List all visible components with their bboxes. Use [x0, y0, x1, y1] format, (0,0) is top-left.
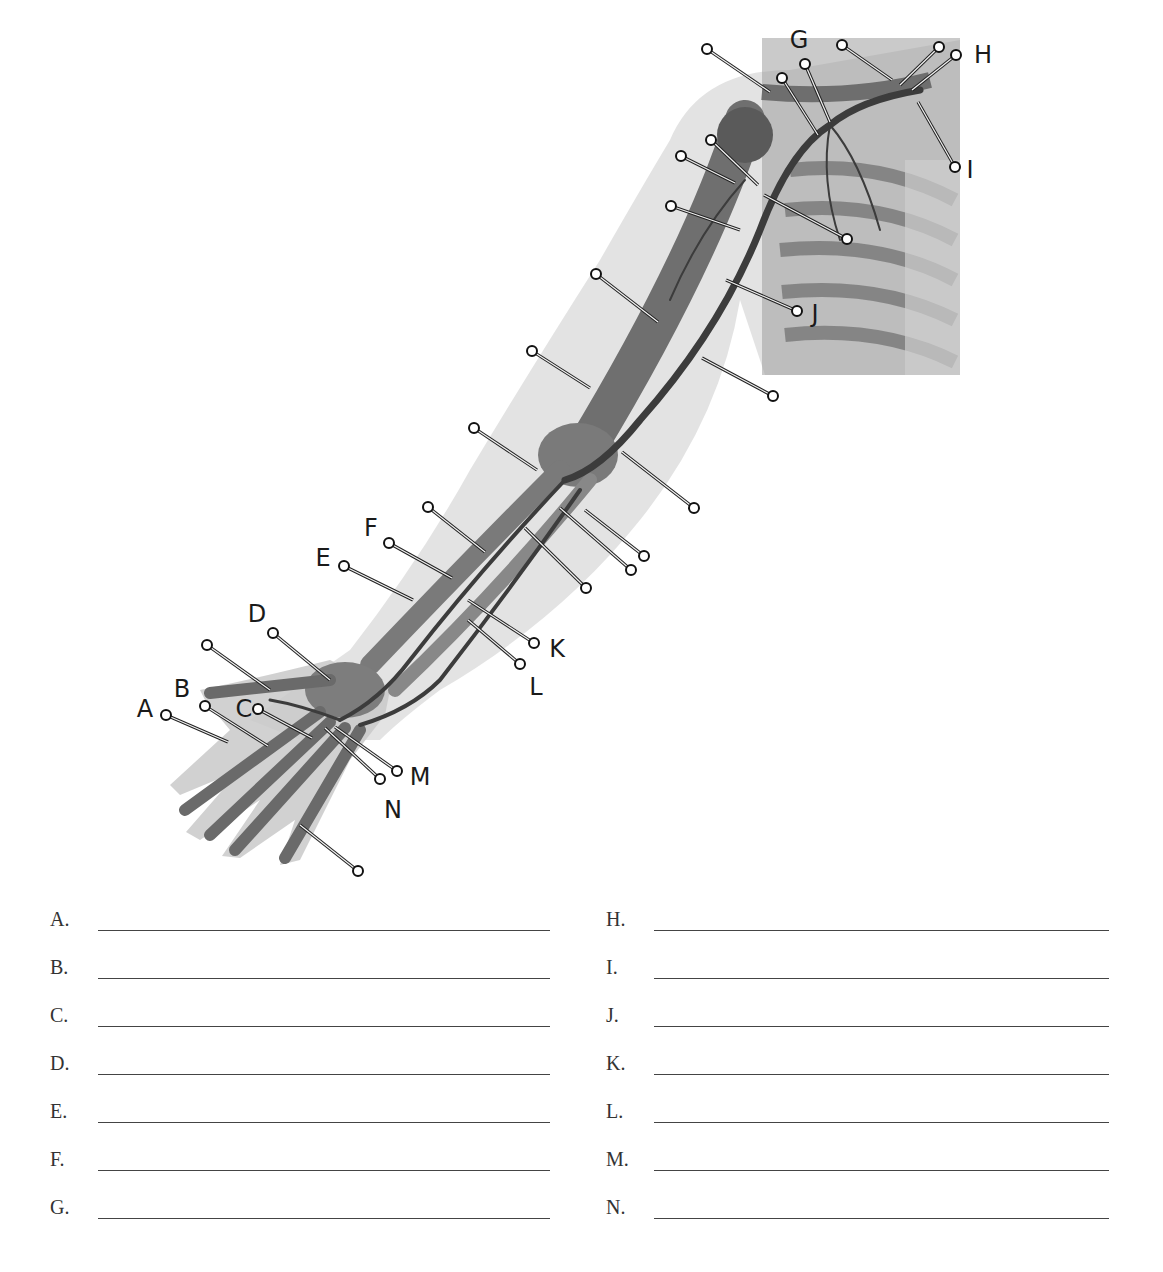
answer-letter: A.	[50, 908, 69, 931]
callout-label-n: N	[384, 796, 402, 824]
answer-letter: J.	[606, 1004, 619, 1027]
answer-letter: L.	[606, 1100, 623, 1123]
answer-blank-line[interactable]	[654, 1074, 1109, 1075]
answer-blank-line[interactable]	[98, 1026, 550, 1027]
answer-letter: I.	[606, 956, 618, 979]
callout-m-pin-circle-icon	[392, 766, 402, 776]
unlabeled-1-pin-circle-icon	[777, 73, 787, 83]
answer-blank-line[interactable]	[654, 930, 1109, 931]
unlabeled-4-pin-circle-icon	[706, 135, 716, 145]
callout-d-pin-circle-icon	[268, 628, 278, 638]
callout-label-l: L	[529, 673, 543, 701]
callout-f-pin-circle-icon	[384, 538, 394, 548]
answer-blank-line[interactable]	[654, 1170, 1109, 1171]
callout-g-pin-circle-icon	[800, 59, 810, 69]
callout-label-i: I	[966, 156, 973, 184]
answer-letter: C.	[50, 1004, 68, 1027]
callout-label-h: H	[974, 41, 992, 69]
callout-label-c: C	[236, 695, 253, 723]
callout-label-j: J	[809, 300, 818, 328]
arm-arteries-illustration: ABCDEFGHIJKLMN	[0, 0, 1163, 890]
answer-row-h: H.	[606, 900, 1109, 940]
callout-label-m: M	[410, 763, 431, 791]
answer-letter: F.	[50, 1148, 65, 1171]
unlabeled-8-pin-circle-icon	[591, 269, 601, 279]
callout-c-pin-circle-icon	[253, 704, 263, 714]
answer-row-e: E.	[50, 1092, 550, 1132]
callout-label-a: A	[137, 695, 154, 723]
answer-blank-line[interactable]	[654, 978, 1109, 979]
answer-letter: M.	[606, 1148, 629, 1171]
answer-blank-line[interactable]	[654, 1218, 1109, 1219]
answer-letter: N.	[606, 1196, 625, 1219]
unlabeled-13-pin-circle-icon	[423, 502, 433, 512]
thorax-ribcage	[762, 38, 960, 375]
unlabeled-5-pin-circle-icon	[676, 151, 686, 161]
callout-label-b: B	[174, 675, 190, 703]
answer-blank-line[interactable]	[654, 1122, 1109, 1123]
unlabeled-14-pin-circle-icon	[639, 551, 649, 561]
unlabeled-18-pin-circle-icon	[353, 866, 363, 876]
answer-blank-line[interactable]	[654, 1026, 1109, 1027]
answer-row-g: G.	[50, 1188, 550, 1228]
callout-h-pin-circle-icon	[951, 50, 961, 60]
answer-row-a: A.	[50, 900, 550, 940]
answer-letter: H.	[606, 908, 625, 931]
unlabeled-17-pin-circle-icon	[202, 640, 212, 650]
callout-b-pin-circle-icon	[200, 701, 210, 711]
answer-row-i: I.	[606, 948, 1109, 988]
answer-row-f: F.	[50, 1140, 550, 1180]
unlabeled-7-pin-circle-icon	[666, 201, 676, 211]
answer-row-j: J.	[606, 996, 1109, 1036]
answer-blank-line[interactable]	[98, 1122, 550, 1123]
answer-row-c: C.	[50, 996, 550, 1036]
callout-a-pin-circle-icon	[161, 710, 171, 720]
callout-label-f: F	[364, 514, 378, 542]
answer-letter: B.	[50, 956, 68, 979]
callout-l-pin-circle-icon	[515, 659, 525, 669]
answer-blank-line[interactable]	[98, 1170, 550, 1171]
unlabeled-16-pin-circle-icon	[581, 583, 591, 593]
answer-letter: D.	[50, 1052, 69, 1075]
unlabeled-6-pin-circle-icon	[842, 234, 852, 244]
answer-blank-line[interactable]	[98, 1218, 550, 1219]
callout-label-d: D	[248, 600, 266, 628]
unlabeled-15-pin-circle-icon	[626, 565, 636, 575]
callout-k-pin-circle-icon	[529, 638, 539, 648]
unlabeled-10-pin-circle-icon	[527, 346, 537, 356]
answer-letter: E.	[50, 1100, 67, 1123]
unlabeled-9-pin-circle-icon	[768, 391, 778, 401]
callout-e-pin-circle-icon	[339, 561, 349, 571]
answer-letter: G.	[50, 1196, 69, 1219]
answer-blank-line[interactable]	[98, 930, 550, 931]
answer-letter: K.	[606, 1052, 625, 1075]
answer-row-b: B.	[50, 948, 550, 988]
answer-row-m: M.	[606, 1140, 1109, 1180]
answer-row-d: D.	[50, 1044, 550, 1084]
answer-blank-line[interactable]	[98, 978, 550, 979]
callout-label-k: K	[549, 635, 566, 663]
callout-i-pin-circle-icon	[950, 162, 960, 172]
unlabeled-11-pin-circle-icon	[469, 423, 479, 433]
unlabeled-3-pin-circle-icon	[934, 42, 944, 52]
answer-row-k: K.	[606, 1044, 1109, 1084]
unlabeled-2-pin-circle-icon	[837, 40, 847, 50]
answer-blank-line[interactable]	[98, 1074, 550, 1075]
answer-row-l: L.	[606, 1092, 1109, 1132]
callout-j-pin-circle-icon	[792, 306, 802, 316]
answer-row-n: N.	[606, 1188, 1109, 1228]
callout-label-g: G	[790, 26, 809, 54]
unlabeled-12-pin-circle-icon	[689, 503, 699, 513]
answer-sheet: A.B.C.D.E.F.G. H.I.J.K.L.M.N.	[0, 900, 1163, 1240]
callout-label-e: E	[315, 544, 330, 572]
callout-n-pin-circle-icon	[375, 774, 385, 784]
unlabeled-0-pin-circle-icon	[702, 44, 712, 54]
